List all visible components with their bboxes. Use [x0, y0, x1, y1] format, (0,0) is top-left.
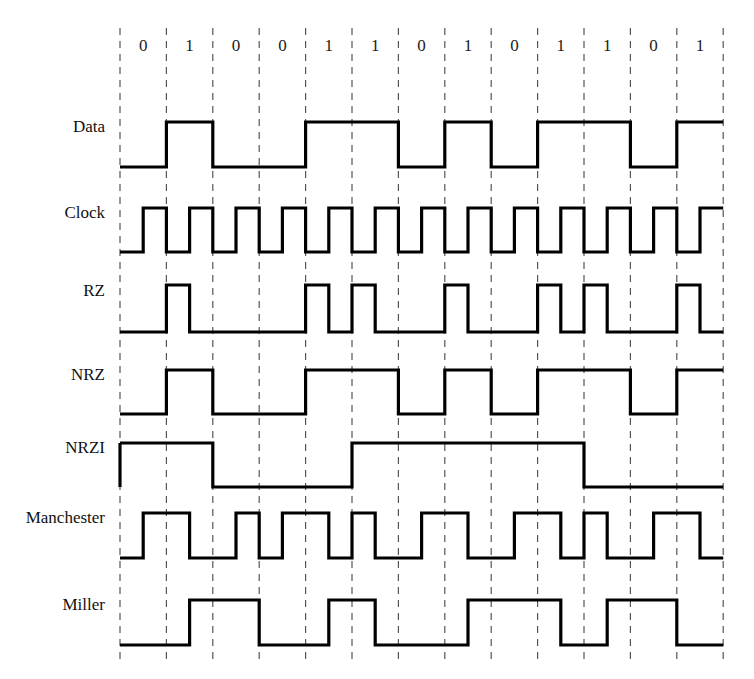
- row-label-nrzi: NRZI: [65, 438, 105, 457]
- row-label-nrz: NRZ: [71, 365, 105, 384]
- row-label-clock: Clock: [64, 203, 105, 222]
- bit-label: 0: [417, 36, 426, 55]
- waveform-rz: [120, 285, 723, 332]
- bit-label: 1: [603, 36, 612, 55]
- waveform-manchester: [120, 513, 723, 558]
- bit-label: 1: [696, 36, 705, 55]
- bit-label: 0: [278, 36, 287, 55]
- line-code-timing-diagram: 0100110101101 DataClockRZNRZNRZIManchest…: [0, 0, 754, 679]
- waveform-clock: [120, 208, 723, 252]
- waveform-row-labels: DataClockRZNRZNRZIManchesterMiller: [26, 117, 106, 614]
- bit-sequence-labels: 0100110101101: [139, 36, 704, 55]
- bit-label: 0: [649, 36, 658, 55]
- bit-label: 1: [185, 36, 194, 55]
- waveform-miller: [120, 600, 723, 645]
- bit-label: 1: [464, 36, 473, 55]
- bit-label: 1: [557, 36, 566, 55]
- waveform-data: [120, 122, 723, 167]
- waveform-nrz: [120, 370, 723, 414]
- bit-label: 0: [232, 36, 241, 55]
- bit-label: 1: [325, 36, 334, 55]
- bit-label: 0: [139, 36, 148, 55]
- row-label-manchester: Manchester: [26, 508, 106, 527]
- row-label-rz: RZ: [83, 281, 105, 300]
- row-label-miller: Miller: [63, 595, 106, 614]
- waveform-nrzi: [120, 443, 723, 487]
- waveform-traces: [120, 122, 723, 645]
- bit-label: 0: [510, 36, 519, 55]
- timing-diagram-page: 0100110101101 DataClockRZNRZNRZIManchest…: [0, 0, 754, 679]
- row-label-data: Data: [73, 117, 106, 136]
- bit-label: 1: [371, 36, 380, 55]
